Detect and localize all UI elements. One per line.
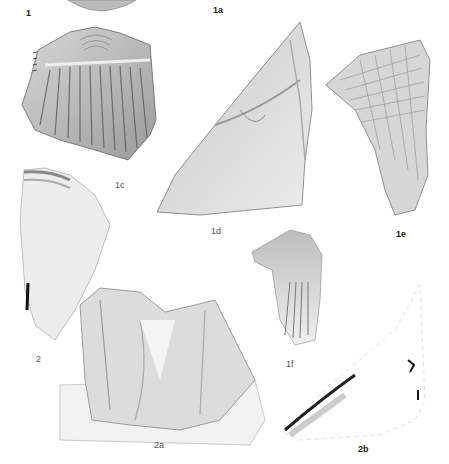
figure-label-1: 1 xyxy=(26,9,31,18)
figure-1d-shell xyxy=(157,22,312,215)
figure-label-1d: 1d xyxy=(211,227,221,236)
figure-1e-shell xyxy=(326,40,430,215)
figure-label-2b: 2b xyxy=(358,445,369,454)
figure-label-2: 2 xyxy=(36,355,41,364)
figure-label-1e: 1e xyxy=(396,230,406,239)
figure-label-1a: 1a xyxy=(213,6,223,15)
figure-label-1f: 1f xyxy=(286,360,294,369)
figure-label-1c: 1c xyxy=(115,181,125,190)
figure-2a-specimen xyxy=(60,288,265,445)
figure-label-2a: 2a xyxy=(154,441,164,450)
figure-1-shell xyxy=(68,0,136,11)
figure-1c-shell xyxy=(22,27,156,160)
fossil-illustrations xyxy=(0,0,449,464)
fossil-plate: 1 1a 1c 1d 1e 1f 2 2a 2b xyxy=(0,0,449,464)
figure-1f-shell xyxy=(252,230,322,345)
